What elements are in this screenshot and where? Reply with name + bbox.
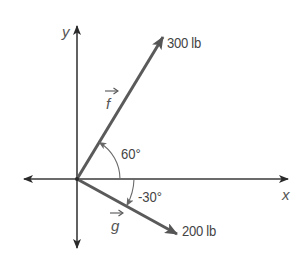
angle-60-label: 60° [121,147,141,162]
vector-arrow-icon [105,87,119,95]
vector-g-label: g [111,218,119,233]
vector-g-magnitude-label: 200 lb [182,224,216,239]
x-axis-label: x [282,187,290,202]
y-axis-label: y [62,24,70,39]
angle-60-arc-icon [100,143,121,180]
vector-f-arrow-icon [77,37,163,179]
vector-f-magnitude-label: 300 lb [167,36,201,51]
vector-g-arrow-icon [77,179,177,234]
origin-point [75,177,79,181]
angle-neg30-label: -30° [138,190,162,205]
vector-f-label: f [106,96,110,111]
diagram-canvas [0,0,302,256]
vector-f-name: f [106,95,110,112]
vector-diagram: y x 300 lb 200 lb 60° -30° f g [0,0,302,256]
vector-g-name: g [111,217,119,234]
angle-neg30-arc-icon [127,179,134,205]
vector-arrow-icon [110,209,124,217]
